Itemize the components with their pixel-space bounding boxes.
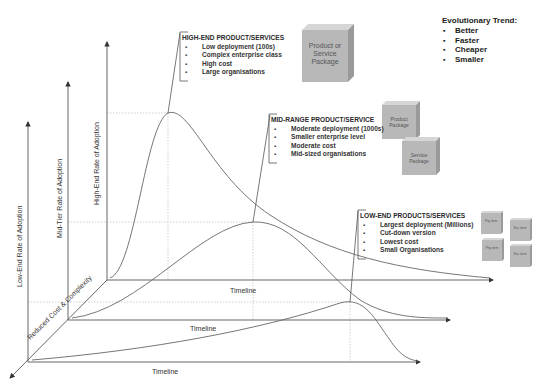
high-end-leader bbox=[168, 33, 180, 113]
low-package-label-4: Svc item bbox=[510, 252, 530, 256]
low-end-curve bbox=[32, 302, 418, 361]
low-package-cube-4: Svc item bbox=[510, 246, 530, 267]
callout-item: Largest deployment (Millions) bbox=[360, 221, 473, 230]
callout-item: Complex enterprise class bbox=[182, 51, 284, 60]
mid-service-package-cube: Service Package bbox=[402, 141, 436, 175]
callout-item: Low deployment (100s) bbox=[182, 43, 284, 52]
callout-item: Cut-down version bbox=[360, 229, 473, 238]
callout-item: Moderate deployment (1000s) bbox=[271, 125, 384, 134]
evolutionary-trend: Evolutionary Trend: Better Faster Cheape… bbox=[442, 16, 517, 65]
high-end-package-cube: Product or Service Package bbox=[302, 30, 348, 82]
trend-item: Cheaper bbox=[442, 45, 517, 55]
evolutionary-trend-title: Evolutionary Trend: bbox=[442, 16, 517, 26]
low-end-leader bbox=[350, 211, 358, 302]
mid-range-leader bbox=[253, 115, 270, 222]
high-end-y-axis-label: High-End Rate of Adoption bbox=[93, 122, 100, 205]
callout-item: Mid-sized organisations bbox=[271, 150, 384, 159]
mid-range-callout: MID-RANGE PRODUCT/SERVICE Moderate deplo… bbox=[271, 116, 384, 159]
low-package-cube-2: Svc item bbox=[510, 220, 530, 241]
callout-item: High cost bbox=[182, 60, 284, 69]
callout-item: Small Organisations bbox=[360, 246, 473, 255]
mid-product-package-label: Product Package bbox=[382, 116, 416, 128]
low-package-cube-3: Prg item bbox=[482, 240, 502, 261]
callout-item: Large organisations bbox=[182, 68, 284, 77]
mid-tier-timeline-label: Timeline bbox=[190, 325, 216, 332]
callout-item: Moderate cost bbox=[271, 142, 384, 151]
low-package-label-3: Prg item bbox=[482, 246, 502, 250]
mid-product-package-cube: Product Package bbox=[382, 105, 416, 139]
low-package-cube-1: Prg item bbox=[481, 213, 501, 234]
mid-range-callout-title: MID-RANGE PRODUCT/SERVICE bbox=[271, 116, 384, 125]
low-end-y-axis-label: Low-End Rate of Adoption bbox=[16, 206, 23, 287]
low-end-timeline-label: Timeline bbox=[152, 368, 178, 375]
high-end-callout: HIGH-END PRODUCT/SERVICES Low deployment… bbox=[182, 34, 284, 77]
low-end-callout: LOW-END PRODUCTS/SERVICES Largest deploy… bbox=[360, 212, 473, 255]
trend-item: Faster bbox=[442, 36, 517, 46]
low-package-label-2: Svc item bbox=[510, 226, 530, 230]
low-end-callout-title: LOW-END PRODUCTS/SERVICES bbox=[360, 212, 473, 221]
mid-service-package-label: Service Package bbox=[402, 152, 436, 164]
low-package-label-1: Prg item bbox=[481, 219, 501, 223]
trend-item: Better bbox=[442, 26, 517, 36]
mid-tier-y-axis-label: Mid-Tier Rate of Adoption bbox=[56, 159, 63, 238]
trend-item: Smaller bbox=[442, 55, 517, 65]
callout-item: Smaller enterprise level bbox=[271, 133, 384, 142]
callout-item: Lowest cost bbox=[360, 238, 473, 247]
high-end-callout-title: HIGH-END PRODUCT/SERVICES bbox=[182, 34, 284, 43]
high-end-timeline-label: Timeline bbox=[230, 287, 256, 294]
depth-axis bbox=[10, 280, 107, 378]
high-end-package-label: Product or Service Package bbox=[302, 42, 348, 66]
